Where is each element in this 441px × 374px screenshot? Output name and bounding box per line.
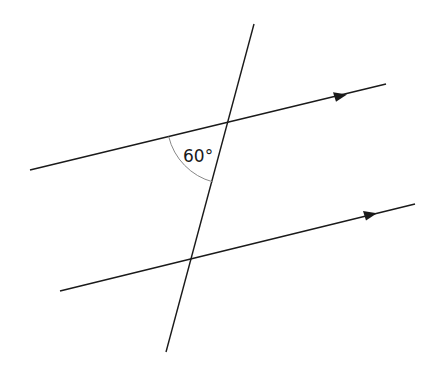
parallel-lines-diagram: 60° [0, 0, 441, 374]
lower-arrow-icon [363, 211, 377, 221]
angle-label: 60° [183, 146, 213, 166]
transversal-line [166, 24, 254, 352]
lower-parallel-line [60, 204, 415, 291]
